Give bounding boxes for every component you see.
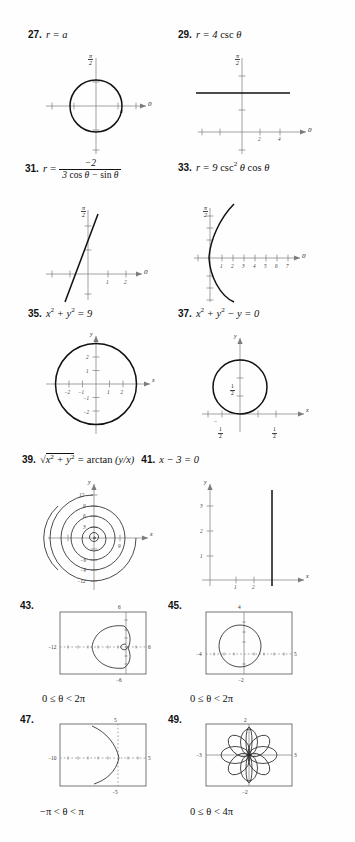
problem-33-graph: 1 2 3 4 5 6 7 π2 0 — [188, 196, 328, 304]
problem-29-equation: r = 4 csc θ — [196, 28, 242, 41]
fraction-denominator: 3 cos θ − sin θ — [59, 169, 121, 181]
svg-text:2: 2 — [244, 717, 247, 723]
problem-49-graph: 2 −3 3 −2 — [196, 714, 306, 800]
svg-text:4: 4 — [278, 136, 281, 142]
problem-37-equation: x2 + y2 − y = 0 — [196, 306, 259, 320]
problem-43-graph: 6 −12 6 −6 — [48, 600, 158, 686]
svg-text:x: x — [305, 407, 309, 413]
problem-49-header: 49. — [168, 714, 182, 727]
problem-31: 31. r = −23 cos θ − sin θ — [25, 158, 121, 181]
svg-text:9: 9 — [118, 543, 121, 549]
svg-text:1: 1 — [86, 368, 89, 374]
svg-text:4: 4 — [253, 263, 256, 269]
problem-47-number: 47. — [20, 714, 34, 727]
svg-text:x: x — [305, 573, 309, 579]
polar-axis-label-zero: 0 — [148, 100, 152, 108]
polar-axis-label-zero: 0 — [302, 252, 306, 260]
svg-text:1: 1 — [220, 263, 223, 269]
problem-35-equation: x2 + y2 = 9 — [46, 306, 92, 320]
viewing-window-47 — [60, 724, 146, 786]
problem-31-header: 31. r = −23 cos θ − sin θ — [25, 158, 121, 181]
problem-31-equation: r = −23 cos θ − sin θ — [43, 158, 122, 181]
problem-43-header: 43. — [20, 600, 34, 613]
svg-text:−3: −3 — [196, 752, 202, 758]
problem-37: 37. x2 + y2 − y = 0 — [178, 306, 259, 320]
svg-text:5: 5 — [148, 755, 151, 761]
axes-39: 12 9 6 3 −6 −9 −12 9 x y — [48, 479, 153, 590]
axes-35: −2 −1 1 2 2 1 −1 −2 x y — [46, 331, 155, 434]
problem-41-equation: x − 3 = 0 — [159, 453, 199, 466]
problem-45-header: 45. — [168, 600, 182, 613]
svg-text:2: 2 — [252, 584, 255, 590]
problem-27-graph: π2 0 a — [38, 44, 158, 156]
svg-text:2: 2 — [258, 136, 261, 142]
problem-35: 35. x2 + y2 = 9 — [28, 306, 92, 320]
problem-29-number: 29. — [178, 29, 192, 42]
problem-47-graph: 5 −10 5 −5 — [48, 714, 158, 800]
problem-47: 47. — [20, 714, 34, 727]
problem-43-number: 43. — [20, 600, 34, 613]
x-tick-label-one-half: 12 — [272, 417, 277, 439]
point-label-a: a — [120, 108, 123, 114]
circle-curve-45 — [219, 625, 261, 667]
problem-31-number: 31. — [25, 163, 39, 176]
svg-text:1: 1 — [106, 279, 109, 285]
problem-37-number: 37. — [178, 308, 192, 321]
problem-33: 33. r = 9 csc2 θ cos θ — [178, 160, 269, 174]
problem-39-header: 39. √x2 + y2 = arctan (y/x) 41. x − 3 = … — [22, 452, 199, 466]
problem-31-graph: 1 2 π2 0 — [38, 196, 158, 304]
fraction-numerator: −2 — [82, 158, 99, 169]
problem-39: 39. √x2 + y2 = arctan (y/x) 41. x − 3 = … — [22, 452, 199, 466]
svg-text:x: x — [151, 377, 155, 383]
parabola-curve-47 — [92, 726, 119, 784]
problem-27-number: 27. — [28, 29, 42, 42]
svg-text:−6: −6 — [116, 677, 122, 683]
problem-27: 27. r = a — [28, 28, 68, 42]
problem-43-condition: 0 ≤ θ < 2π — [42, 693, 85, 704]
problem-27-header: 27. r = a — [28, 28, 68, 42]
svg-text:2: 2 — [86, 354, 89, 360]
polar-axis-label-pi-over-2: π2 — [235, 44, 240, 66]
svg-text:−2: −2 — [242, 789, 248, 795]
svg-text:−5: −5 — [112, 789, 118, 795]
y-tick-label-one-half: 12 — [230, 374, 235, 396]
minus-sign-neg-half: − — [214, 418, 217, 424]
problem-27-equation: r = a — [46, 28, 68, 41]
polar-axis-label-pi-over-2: π2 — [81, 196, 86, 218]
svg-text:7: 7 — [286, 263, 289, 269]
viewing-window-43 — [60, 612, 146, 674]
svg-text:9: 9 — [83, 503, 86, 509]
problem-49-number: 49. — [168, 714, 182, 727]
svg-text:−4: −4 — [196, 651, 202, 657]
problem-47-condition: −π < θ < π — [40, 806, 84, 817]
axes-29 — [198, 58, 306, 154]
axes-43 — [60, 612, 146, 674]
svg-text:4: 4 — [238, 604, 241, 610]
svg-text:3: 3 — [200, 503, 203, 509]
svg-text:−10: −10 — [48, 755, 57, 761]
svg-text:3: 3 — [83, 524, 86, 530]
polar-axis-label-pi-over-2: π2 — [88, 44, 93, 66]
problem-39-graph: 12 9 6 3 −6 −9 −12 9 x y — [38, 476, 168, 594]
axes-47 — [60, 724, 146, 786]
svg-text:2: 2 — [124, 279, 127, 285]
problem-37-graph: x y 12 − 12 12 — [192, 326, 322, 438]
answer-page: 27. r = a π2 0 — [0, 0, 355, 842]
polar-axis-label-pi-over-2: π2 — [203, 196, 208, 218]
polar-axis-label-zero: 0 — [308, 126, 312, 134]
svg-text:3: 3 — [294, 752, 297, 758]
problem-41-graph: 1 2 3 1 2 x y — [192, 476, 322, 594]
svg-text:−2: −2 — [83, 409, 90, 415]
svg-text:−2: −2 — [64, 389, 71, 395]
axes-41: 1 2 3 1 2 x y — [200, 479, 309, 590]
problem-29-graph: 2 4 π2 0 — [190, 44, 320, 156]
svg-text:5: 5 — [264, 263, 267, 269]
problem-45-graph: 4 −4 5 −2 — [196, 600, 306, 686]
svg-text:6: 6 — [148, 644, 151, 650]
problem-35-number: 35. — [28, 308, 42, 321]
problem-45: 45. — [168, 600, 182, 613]
svg-text:y: y — [89, 331, 93, 337]
svg-text:1: 1 — [234, 584, 237, 590]
problem-33-number: 33. — [178, 162, 192, 175]
parabola-curve — [209, 204, 234, 302]
